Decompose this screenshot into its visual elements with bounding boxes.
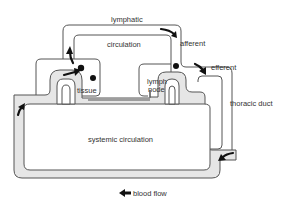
label-tissue: tissue bbox=[77, 86, 97, 95]
arrow-efferent bbox=[195, 64, 206, 75]
lymph-circulation-diagram: lymphatic circulation afferent efferent … bbox=[0, 0, 288, 208]
tissue-capillary-inner bbox=[62, 85, 70, 104]
label-afferent: afferent bbox=[180, 39, 206, 48]
label-efferent: efferent bbox=[211, 63, 237, 72]
arrow-tissue-to-lymphatic bbox=[66, 46, 73, 63]
label-blood-flow: blood flow bbox=[133, 189, 167, 198]
label-lymph-node-line2: node bbox=[148, 85, 165, 94]
label-circulation: circulation bbox=[107, 40, 141, 49]
label-systemic-circulation: systemic circulation bbox=[88, 135, 153, 144]
arrow-afferent bbox=[161, 29, 177, 38]
lymph-node-capillary-inner bbox=[169, 86, 175, 104]
cell-dot-lymph-node bbox=[173, 63, 179, 69]
label-lymphatic: lymphatic bbox=[111, 15, 143, 24]
label-thoracic-duct: thoracic duct bbox=[230, 99, 273, 108]
blood-flow-legend-arrow-icon bbox=[119, 189, 131, 197]
cell-dot-tissue-2 bbox=[90, 75, 96, 81]
